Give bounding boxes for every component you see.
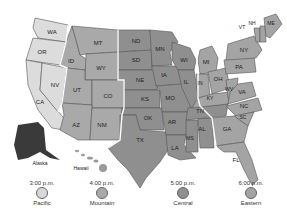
legend-pacific-time: 3:00 p.m. (12, 180, 72, 186)
state-me (264, 14, 282, 38)
legend-central-time: 5:00 p.m. (153, 180, 213, 186)
label-id: ID (68, 58, 75, 64)
label-hawaii: Hawaii (73, 165, 88, 171)
state-fl (216, 142, 258, 185)
label-mi: MI (203, 59, 210, 65)
label-mt: MT (94, 40, 103, 46)
label-nv: NV (51, 82, 59, 88)
label-la: LA (171, 145, 178, 151)
label-ny: NY (240, 47, 248, 53)
label-wa: WA (47, 29, 56, 35)
eastern-dot-icon (245, 187, 257, 199)
label-ks: KS (141, 96, 149, 102)
state-wi (172, 42, 196, 70)
label-tx: TX (136, 137, 144, 143)
state-al (198, 118, 214, 148)
label-il: IL (183, 79, 189, 85)
label-ok: OK (144, 115, 153, 121)
label-va: VA (238, 89, 246, 95)
mountain-zone (60, 26, 124, 140)
label-or: OR (38, 49, 48, 55)
legend-mountain: 4:00 p.m. Mountain (72, 180, 132, 206)
label-pa: PA (235, 64, 243, 70)
label-nd: ND (132, 38, 141, 44)
label-wv: WV (225, 86, 234, 92)
mountain-dot-icon (96, 187, 108, 199)
label-sd: SD (132, 57, 141, 63)
pacific-dot-icon (36, 187, 48, 199)
label-ca: CA (36, 99, 44, 105)
label-me: ME (267, 20, 275, 26)
legend-mountain-time: 4:00 p.m. (72, 180, 132, 186)
label-tn: TN (196, 108, 204, 114)
label-co: CO (104, 93, 113, 99)
label-ga: GA (223, 126, 232, 132)
legend-eastern-name: Eastern (221, 200, 281, 206)
legend-mountain-name: Mountain (72, 200, 132, 206)
label-ar: AR (168, 119, 177, 125)
legend-pacific-name: Pacific (12, 200, 72, 206)
label-in: IN (198, 80, 203, 86)
label-mo: MO (165, 95, 175, 101)
label-al: AL (198, 126, 206, 132)
label-nm: NM (97, 122, 106, 128)
legend-central-name: Central (153, 200, 213, 206)
label-az: AZ (72, 122, 80, 128)
legend-central: 5:00 p.m. Central (153, 180, 213, 206)
label-oh: OH (214, 76, 223, 82)
label-wy: WY (96, 65, 106, 71)
label-vt: VT (239, 24, 245, 30)
label-ia: IA (161, 72, 167, 78)
central-dot-icon (177, 187, 189, 199)
legend-eastern-time: 6:00 p.m. (221, 180, 281, 186)
label-fl: FL (232, 157, 240, 163)
label-ne: NE (136, 77, 144, 83)
label-wi: WI (180, 57, 188, 63)
label-sc: SC (240, 114, 247, 120)
label-ky: KY (207, 95, 214, 101)
label-mn: MN (155, 46, 164, 52)
label-alaska: Alaska (32, 160, 47, 166)
label-ut: UT (73, 87, 81, 93)
legend-pacific: 3:00 p.m. Pacific (12, 180, 72, 206)
label-nh: NH (248, 20, 256, 26)
label-ms: MS (186, 135, 194, 141)
legend-eastern: 6:00 p.m. Eastern (221, 180, 281, 206)
label-nc: NC (240, 103, 249, 109)
